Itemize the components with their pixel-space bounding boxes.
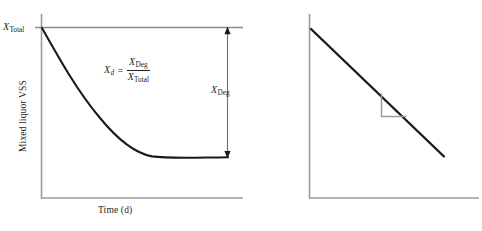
xd-equation: Xd = XDeg XTotal [104, 56, 150, 84]
left-y-axis-title: Mixed liquor VSS [19, 80, 29, 152]
equation-operator: = [118, 65, 124, 76]
figure-container: XTotal XDeg Xd = XDeg XTotal Mixed liquo… [0, 0, 482, 231]
vss-decay-curve [42, 28, 228, 158]
right-chart-panel: b log XDeg Time (d) [250, 0, 482, 231]
equation-numerator: XDeg [128, 56, 149, 70]
slope-triangle [382, 94, 407, 117]
x-total-label: XTotal [3, 22, 24, 33]
right-chart-plot [250, 0, 482, 231]
equation-denominator: XTotal [127, 71, 150, 85]
x-deg-label: XDeg [211, 85, 230, 96]
equation-lhs: Xd [104, 64, 114, 77]
left-chart-plot [0, 0, 250, 231]
log-xdeg-decay-line [311, 29, 444, 157]
left-chart-panel: XTotal XDeg Xd = XDeg XTotal Mixed liquo… [0, 0, 250, 231]
equation-fraction: XDeg XTotal [127, 56, 150, 84]
left-x-axis-title: Time (d) [98, 206, 132, 216]
